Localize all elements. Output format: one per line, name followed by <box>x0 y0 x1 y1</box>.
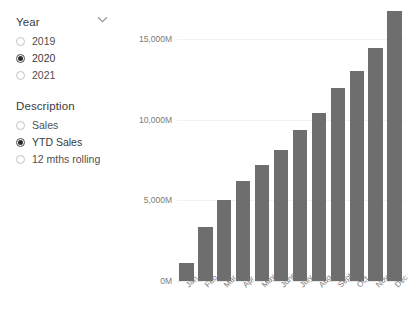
slicer-year-option-label: 2020 <box>32 52 55 65</box>
x-axis-tick-label: Jan <box>184 274 199 289</box>
slicer-panel: Year 2019 2020 2021 Description <box>0 0 126 318</box>
y-axis-tick-label: 15,000M <box>139 34 172 44</box>
slicer-description-option-12-mths-rolling[interactable]: 12 mths rolling <box>16 151 120 168</box>
x-axis-tick-label: May <box>260 272 277 289</box>
y-axis-tick-label: 10,000M <box>139 115 172 125</box>
x-axis: JanFebMarAprMayJuneJulyAugSeptOctNovDec <box>177 0 404 318</box>
slicer-description-option-label: 12 mths rolling <box>32 153 100 166</box>
slicer-year-title: Year <box>16 16 40 28</box>
y-axis-tick-label: 0M <box>160 276 172 286</box>
x-axis-tick-label: Nov <box>374 273 390 289</box>
x-axis-tick-label: Mar <box>222 273 238 289</box>
slicer-description-option-ytd-sales[interactable]: YTD Sales <box>16 134 120 151</box>
x-axis-tick-label: Oct <box>355 274 370 289</box>
slicer-description-option-label: YTD Sales <box>32 136 82 149</box>
slicer-description-option-label: Sales <box>32 119 58 132</box>
y-axis: 0M5,000M10,000M15,000M <box>126 0 178 318</box>
slicer-year-header: Year <box>16 12 120 30</box>
slicer-year-options: 2019 2020 2021 <box>16 33 120 84</box>
radio-icon <box>16 121 25 130</box>
slicer-year-option-2021[interactable]: 2021 <box>16 67 120 84</box>
chevron-down-icon[interactable] <box>97 16 108 23</box>
x-axis-tick-label: Dec <box>393 273 409 289</box>
x-axis-tick-label: Sept <box>336 271 354 289</box>
x-axis-tick-label: June <box>279 271 298 290</box>
slicer-year-option-2019[interactable]: 2019 <box>16 33 120 50</box>
slicer-description-title: Description <box>16 100 75 112</box>
radio-icon <box>16 37 25 46</box>
slicer-description-header: Description <box>16 96 120 114</box>
radio-selected-icon <box>16 138 25 147</box>
slicer-year-option-label: 2019 <box>32 35 55 48</box>
slicer-year: Year 2019 2020 2021 <box>16 12 120 84</box>
slicer-description-option-sales[interactable]: Sales <box>16 117 120 134</box>
bar-chart: 0M5,000M10,000M15,000M JanFebMarAprMayJu… <box>126 0 412 318</box>
radio-selected-icon <box>16 54 25 63</box>
slicer-description-options: Sales YTD Sales 12 mths rolling <box>16 117 120 168</box>
x-axis-tick-label: Feb <box>203 273 219 289</box>
slicer-year-option-label: 2021 <box>32 69 55 82</box>
slicer-year-option-2020[interactable]: 2020 <box>16 50 120 67</box>
radio-icon <box>16 71 25 80</box>
y-axis-tick-label: 5,000M <box>144 195 172 205</box>
plot-area: JanFebMarAprMayJuneJulyAugSeptOctNovDec <box>177 0 412 318</box>
radio-icon <box>16 155 25 164</box>
x-axis-tick-label: Apr <box>241 274 256 289</box>
slicer-description: Description Sales YTD Sales 12 mths roll… <box>16 96 120 168</box>
x-axis-tick-label: Aug <box>317 273 333 289</box>
x-axis-tick-label: July <box>298 273 314 289</box>
